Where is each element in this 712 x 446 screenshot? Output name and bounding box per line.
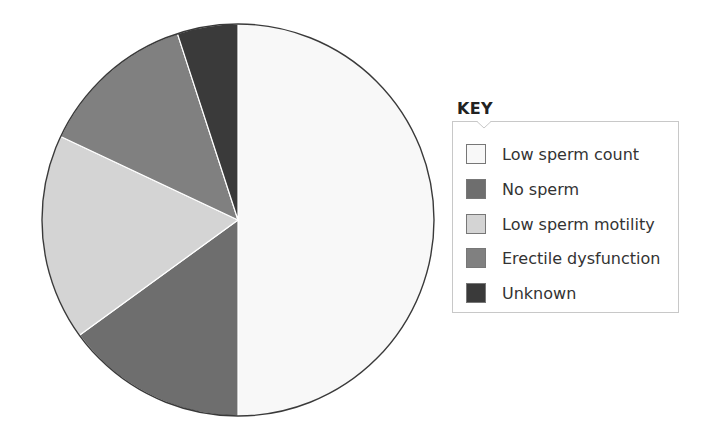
legend-label: Erectile dysfunction	[502, 249, 660, 268]
legend-title: KEY	[457, 99, 493, 118]
legend-item-unknown: Unknown	[466, 282, 576, 304]
legend-item-erectile-dysfunction: Erectile dysfunction	[466, 247, 660, 269]
legend-label: Unknown	[502, 284, 576, 303]
legend-label: Low sperm motility	[502, 215, 655, 234]
legend-label: No sperm	[502, 180, 579, 199]
legend-item-low-sperm-count: Low sperm count	[466, 143, 639, 165]
legend-notch	[477, 121, 491, 130]
legend-item-low-sperm-motility: Low sperm motility	[466, 213, 655, 235]
legend-swatch	[466, 214, 486, 234]
legend-swatch	[466, 144, 486, 164]
legend-swatch	[466, 248, 486, 268]
legend-label: Low sperm count	[502, 145, 639, 164]
legend-swatch	[466, 179, 486, 199]
legend-item-no-sperm: No sperm	[466, 178, 579, 200]
legend-swatch	[466, 283, 486, 303]
pie-slices	[42, 24, 434, 416]
pie-slice-low-sperm-count	[238, 24, 434, 416]
